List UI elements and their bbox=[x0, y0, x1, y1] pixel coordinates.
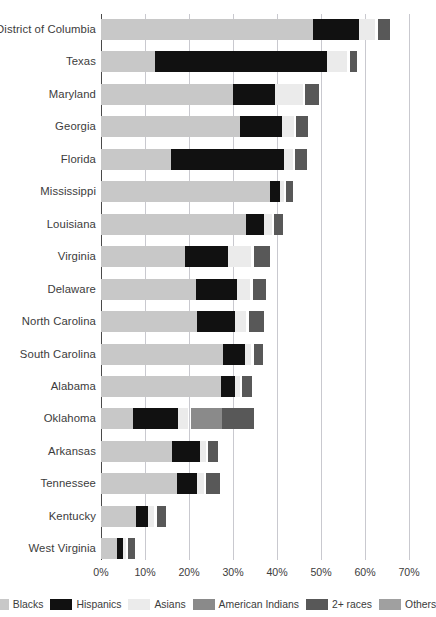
legend-label: Asians bbox=[154, 599, 185, 610]
x-axis-tick-label: 20% bbox=[164, 566, 214, 578]
bar-segment-hispanics bbox=[223, 344, 245, 365]
bar-segment-asians bbox=[235, 376, 240, 397]
legend-swatch-icon bbox=[128, 599, 150, 610]
bar-segment-blacks bbox=[101, 84, 233, 105]
bar-segment-hispanics bbox=[313, 19, 359, 40]
bar-segment-2-races bbox=[128, 538, 135, 559]
legend-label: Hispanics bbox=[76, 599, 121, 610]
bar-segment-blacks bbox=[101, 181, 270, 202]
y-axis-label: Georgia bbox=[0, 120, 96, 132]
bar-segment-hispanics bbox=[177, 473, 197, 494]
y-axis-label: Kentucky bbox=[0, 510, 96, 522]
x-axis-tick-label: 0% bbox=[76, 566, 126, 578]
bar-segment-2-races bbox=[222, 408, 254, 429]
legend-label: Blacks bbox=[13, 599, 44, 610]
bar-segment-blacks bbox=[101, 149, 171, 170]
bar-segment-asians bbox=[197, 473, 204, 494]
y-axis-label: Virginia bbox=[0, 250, 96, 262]
y-axis-label: South Carolina bbox=[0, 348, 96, 360]
legend-label: Others bbox=[405, 599, 436, 610]
legend-item[interactable]: Blacks bbox=[0, 599, 43, 610]
bar-segment-asians bbox=[359, 19, 375, 40]
bar-segment-2-races bbox=[286, 181, 293, 202]
legend-swatch-icon bbox=[0, 599, 9, 610]
legend-item[interactable]: Hispanics bbox=[50, 599, 121, 610]
bar-segment-asians bbox=[237, 279, 250, 300]
legend-item[interactable]: 2+ races bbox=[306, 599, 372, 610]
legend-item[interactable]: American Indians bbox=[193, 599, 299, 610]
bar-segment-asians bbox=[264, 214, 272, 235]
legend-swatch-icon bbox=[193, 599, 215, 610]
y-axis-label: Tennessee bbox=[0, 477, 96, 489]
bar-segment-asians bbox=[200, 441, 206, 462]
bar-segment-asians bbox=[275, 84, 303, 105]
y-axis-label: Mississippi bbox=[0, 185, 96, 197]
bar-segment-blacks bbox=[101, 376, 221, 397]
bar-segment-2-races bbox=[254, 344, 263, 365]
bar-segment-hispanics bbox=[155, 51, 327, 72]
bar-segment-hispanics bbox=[185, 246, 227, 267]
bar-segment-blacks bbox=[101, 116, 240, 137]
legend-swatch-icon bbox=[306, 599, 328, 610]
legend-item[interactable]: Asians bbox=[128, 599, 185, 610]
bar-segment-2-races bbox=[208, 441, 218, 462]
bar-segment-blacks bbox=[101, 311, 197, 332]
y-axis-label: Oklahoma bbox=[0, 412, 96, 424]
bar-segment-hispanics bbox=[246, 214, 264, 235]
bar-segment-asians bbox=[123, 538, 126, 559]
y-axis-label: West Virginia bbox=[0, 542, 96, 554]
y-axis-label: Alabama bbox=[0, 380, 96, 392]
x-axis-tick-label: 40% bbox=[252, 566, 302, 578]
bar-segment-2-races bbox=[274, 214, 283, 235]
bar-segment-blacks bbox=[101, 538, 117, 559]
bar-segment-2-races bbox=[206, 473, 220, 494]
gridline-70 bbox=[409, 14, 410, 560]
x-axis-tick-label: 70% bbox=[384, 566, 434, 578]
bar-segment-asians bbox=[245, 344, 251, 365]
bar-segment-2-races bbox=[378, 19, 390, 40]
y-axis-label: Arkansas bbox=[0, 445, 96, 457]
bar-segment-blacks bbox=[101, 19, 313, 40]
bar-segment-hispanics bbox=[136, 506, 148, 527]
bar-segment-asians bbox=[284, 149, 292, 170]
bar-segment-blacks bbox=[101, 246, 185, 267]
y-axis-label: Florida bbox=[0, 153, 96, 165]
bar-segment-2-races bbox=[253, 279, 266, 300]
y-axis-label: Texas bbox=[0, 55, 96, 67]
bar-segment-blacks bbox=[101, 51, 155, 72]
bar-segment-hispanics bbox=[196, 279, 237, 300]
bar-segment-2-races bbox=[296, 116, 308, 137]
legend-swatch-icon bbox=[379, 599, 401, 610]
chart-legend: BlacksHispanicsAsiansAmerican Indians2+ … bbox=[0, 594, 423, 614]
bar-segment-2-races bbox=[295, 149, 307, 170]
bar-segment-2-races bbox=[305, 84, 319, 105]
gridline-50 bbox=[321, 14, 322, 560]
y-axis-label: Louisiana bbox=[0, 218, 96, 230]
bar-segment-asians bbox=[178, 408, 188, 429]
bar-segment-hispanics bbox=[233, 84, 275, 105]
x-axis-tick-label: 50% bbox=[296, 566, 346, 578]
bar-segment-blacks bbox=[101, 408, 133, 429]
bar-segment-asians bbox=[282, 116, 293, 137]
bar-segment-blacks bbox=[101, 279, 196, 300]
legend-item[interactable]: Others bbox=[379, 599, 436, 610]
bar-segment-asians bbox=[228, 246, 252, 267]
x-axis-tick-label: 30% bbox=[208, 566, 258, 578]
bar-segment-american-indians bbox=[191, 408, 222, 429]
bar-segment-asians bbox=[148, 506, 154, 527]
bar-segment-asians bbox=[327, 51, 348, 72]
bar-segment-blacks bbox=[101, 344, 223, 365]
y-axis-label: District of Columbia bbox=[0, 23, 96, 35]
bar-segment-2-races bbox=[242, 376, 251, 397]
plot-area bbox=[101, 14, 409, 560]
y-axis-label: Delaware bbox=[0, 283, 96, 295]
bar-segment-blacks bbox=[101, 506, 136, 527]
legend-label: 2+ races bbox=[332, 599, 372, 610]
bar-segment-hispanics bbox=[197, 311, 235, 332]
bar-segment-asians bbox=[235, 311, 246, 332]
bar-segment-2-races bbox=[254, 246, 270, 267]
x-axis-tick-label: 60% bbox=[340, 566, 390, 578]
x-axis-tick-label: 10% bbox=[120, 566, 170, 578]
bar-segment-blacks bbox=[101, 473, 177, 494]
bar-segment-2-races bbox=[249, 311, 265, 332]
